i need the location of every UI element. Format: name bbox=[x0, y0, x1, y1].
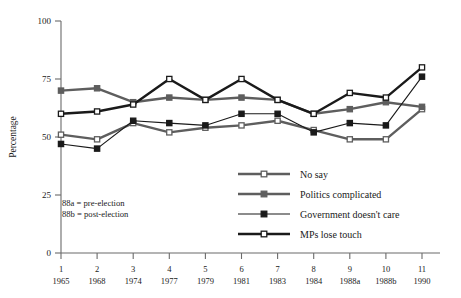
data-point-marker bbox=[58, 132, 63, 137]
chart-axes: 0255075100Percentage11965219683197441977… bbox=[8, 16, 440, 286]
data-point-marker bbox=[383, 137, 388, 142]
data-point-marker bbox=[419, 65, 424, 70]
data-point-marker bbox=[275, 111, 280, 116]
x-tick-index-label: 5 bbox=[203, 264, 207, 274]
x-tick-year-label: 1968 bbox=[89, 276, 106, 286]
chart-series-group bbox=[58, 65, 424, 151]
data-point-marker bbox=[95, 137, 100, 142]
legend-label: MPs lose touch bbox=[300, 229, 362, 240]
x-tick-year-label: 1981 bbox=[233, 276, 250, 286]
data-point-marker bbox=[95, 146, 100, 151]
x-tick-index-label: 3 bbox=[131, 264, 135, 274]
x-tick-year-label: 1988a bbox=[339, 276, 360, 286]
x-tick-year-label: 1988b bbox=[375, 276, 396, 286]
chart-legend: No sayPolitics complicatedGovernment doe… bbox=[238, 169, 400, 240]
legend-marker-swatch bbox=[261, 211, 267, 217]
data-point-marker bbox=[275, 97, 280, 102]
y-tick-label: 25 bbox=[42, 190, 52, 200]
data-point-marker bbox=[58, 141, 63, 146]
data-point-marker bbox=[275, 118, 280, 123]
data-point-marker bbox=[167, 76, 172, 81]
legend-label: No say bbox=[300, 169, 328, 180]
data-point-marker bbox=[131, 102, 136, 107]
data-point-marker bbox=[311, 130, 316, 135]
data-point-marker bbox=[203, 123, 208, 128]
x-tick-index-label: 10 bbox=[382, 264, 391, 274]
data-point-marker bbox=[419, 74, 424, 79]
legend-label: Government doesn't care bbox=[300, 209, 400, 220]
x-tick-index-label: 2 bbox=[95, 264, 99, 274]
chart-annotation-note: 88b = post-election bbox=[62, 209, 129, 219]
data-point-marker bbox=[58, 88, 63, 93]
data-point-marker bbox=[347, 137, 352, 142]
legend-marker-swatch bbox=[261, 171, 267, 177]
data-point-marker bbox=[239, 95, 244, 100]
series-line bbox=[61, 88, 422, 114]
data-point-marker bbox=[383, 123, 388, 128]
data-point-marker bbox=[203, 97, 208, 102]
x-tick-index-label: 9 bbox=[348, 264, 352, 274]
x-tick-year-label: 1965 bbox=[53, 276, 70, 286]
chart-container: 0255075100Percentage11965219683197441977… bbox=[0, 0, 461, 298]
legend-item-4[interactable]: MPs lose touch bbox=[238, 229, 362, 240]
chart-annotations: 88a = pre-election88b = post-election bbox=[62, 198, 129, 219]
data-point-marker bbox=[167, 130, 172, 135]
line-chart: 0255075100Percentage11965219683197441977… bbox=[0, 0, 461, 298]
x-tick-index-label: 1 bbox=[59, 264, 63, 274]
series-4 bbox=[58, 65, 424, 117]
legend-item-3[interactable]: Government doesn't care bbox=[238, 209, 400, 220]
x-tick-year-label: 1974 bbox=[125, 276, 143, 286]
x-tick-index-label: 4 bbox=[167, 264, 172, 274]
legend-item-2[interactable]: Politics complicated bbox=[238, 189, 381, 200]
chart-annotation-note: 88a = pre-election bbox=[62, 198, 125, 208]
data-point-marker bbox=[95, 109, 100, 114]
data-point-marker bbox=[167, 120, 172, 125]
y-tick-label: 100 bbox=[38, 16, 52, 26]
y-tick-label: 75 bbox=[42, 74, 52, 84]
data-point-marker bbox=[95, 86, 100, 91]
y-axis-title: Percentage bbox=[8, 116, 18, 158]
x-tick-index-label: 6 bbox=[239, 264, 243, 274]
x-tick-index-label: 8 bbox=[312, 264, 316, 274]
x-tick-index-label: 11 bbox=[418, 264, 426, 274]
legend-marker-swatch bbox=[261, 231, 267, 237]
legend-marker-swatch bbox=[261, 191, 267, 197]
data-point-marker bbox=[58, 111, 63, 116]
x-tick-index-label: 7 bbox=[275, 264, 279, 274]
data-point-marker bbox=[239, 111, 244, 116]
data-point-marker bbox=[311, 111, 316, 116]
data-point-marker bbox=[239, 123, 244, 128]
legend-item-1[interactable]: No say bbox=[238, 169, 328, 180]
data-point-marker bbox=[383, 95, 388, 100]
data-point-marker bbox=[347, 90, 352, 95]
x-tick-year-label: 1984 bbox=[305, 276, 323, 286]
x-tick-year-label: 1983 bbox=[269, 276, 286, 286]
data-point-marker bbox=[347, 107, 352, 112]
data-point-marker bbox=[239, 76, 244, 81]
x-tick-year-label: 1979 bbox=[197, 276, 214, 286]
data-point-marker bbox=[419, 104, 424, 109]
legend-label: Politics complicated bbox=[300, 189, 381, 200]
x-tick-year-label: 1990 bbox=[414, 276, 431, 286]
y-tick-label: 50 bbox=[42, 132, 52, 142]
data-point-marker bbox=[347, 120, 352, 125]
data-point-marker bbox=[167, 95, 172, 100]
x-tick-year-label: 1977 bbox=[161, 276, 178, 286]
y-tick-label: 0 bbox=[47, 248, 52, 258]
data-point-marker bbox=[131, 118, 136, 123]
